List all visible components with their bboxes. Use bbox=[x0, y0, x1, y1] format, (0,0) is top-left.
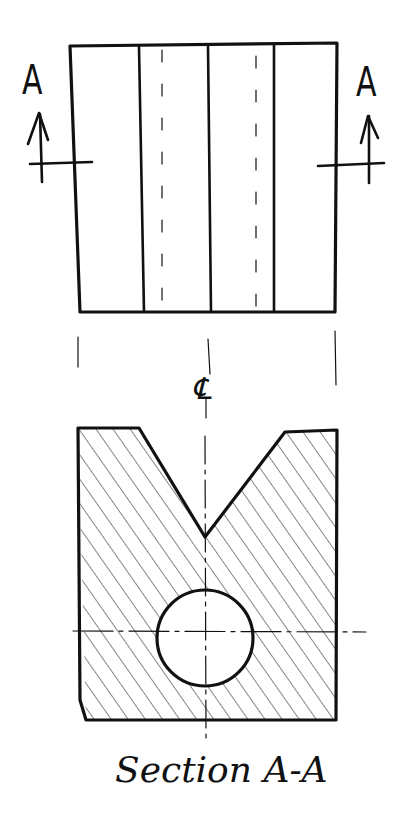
front-view-outline bbox=[70, 43, 337, 312]
cutting-plane-left bbox=[28, 113, 92, 182]
cutting-line-left bbox=[30, 162, 92, 164]
projection-line-right bbox=[335, 331, 336, 385]
section-view bbox=[70, 420, 366, 740]
projection-line-center bbox=[208, 339, 210, 374]
cutting-plane-right bbox=[318, 116, 384, 183]
centerline-symbol: ℄ bbox=[192, 374, 211, 404]
section-caption: Section A-A bbox=[115, 752, 328, 788]
front-view bbox=[70, 43, 337, 312]
section-label-left: A bbox=[22, 60, 43, 100]
arrow-up-icon bbox=[28, 113, 48, 144]
section-hatching bbox=[70, 420, 350, 730]
cutting-line-right bbox=[318, 163, 384, 166]
section-label-right: A bbox=[356, 62, 377, 102]
center-edge bbox=[208, 46, 211, 312]
groove-edge-left bbox=[139, 47, 144, 312]
engineering-drawing bbox=[0, 0, 401, 824]
